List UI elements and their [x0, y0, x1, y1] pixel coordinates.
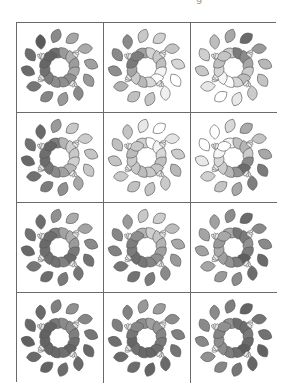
leaf [26, 171, 42, 182]
leaf [19, 63, 37, 78]
leaf [19, 153, 37, 168]
leaf [80, 161, 96, 179]
leaf [82, 237, 100, 252]
leaf [38, 268, 56, 284]
wreath-r4c2 [104, 293, 191, 383]
leaf [247, 85, 258, 101]
wreath-icon [17, 113, 103, 202]
leaf [251, 314, 267, 325]
leaf [136, 117, 151, 135]
leaf [142, 90, 157, 108]
leaf [169, 237, 187, 252]
leaf [247, 175, 258, 191]
wreath-icon [104, 113, 190, 202]
leaf [150, 210, 168, 226]
leaf [167, 161, 183, 179]
leaf [122, 34, 133, 50]
leaf [247, 265, 258, 281]
leaf [63, 301, 81, 317]
wreath-icon [191, 293, 277, 383]
leaf [109, 46, 125, 64]
leaf [73, 265, 84, 281]
leaf [109, 316, 125, 334]
leaf [106, 243, 124, 258]
leaf [82, 57, 100, 72]
leaf [35, 214, 46, 230]
leaf [26, 261, 42, 272]
wreath-grid [16, 22, 276, 382]
wreath-r2c1 [17, 113, 104, 203]
leaf [136, 298, 151, 316]
wreath-r1c2 [104, 23, 191, 113]
leaf [209, 214, 220, 230]
leaf [209, 34, 220, 50]
leaf [80, 342, 96, 360]
leaf [113, 81, 129, 92]
leaf [38, 88, 56, 104]
leaf [125, 88, 143, 104]
leaf [237, 301, 255, 317]
wreath-r4c3 [191, 293, 277, 383]
leaf [209, 305, 220, 321]
leaf [160, 175, 171, 191]
leaf [122, 214, 133, 230]
cropped-text-fragment: g [196, 0, 202, 4]
leaf [167, 342, 183, 360]
wreath-icon [17, 293, 103, 383]
wreath-r1c1 [17, 23, 104, 113]
leaf [125, 359, 143, 375]
leaf [196, 316, 212, 334]
leaf [49, 117, 64, 135]
leaf [106, 334, 124, 349]
leaf [80, 251, 96, 269]
leaf [142, 180, 157, 198]
leaf [229, 180, 244, 198]
wreath-r1c3 [191, 23, 277, 113]
wreath-r4c1 [17, 293, 104, 383]
leaf [200, 261, 216, 272]
leaf [55, 361, 70, 379]
leaf [251, 43, 267, 54]
leaf [169, 327, 187, 342]
leaf [164, 223, 180, 234]
leaf [196, 46, 212, 64]
leaf [49, 207, 64, 225]
leaf [164, 314, 180, 325]
leaf [77, 43, 93, 54]
leaf [223, 207, 238, 225]
leaf [38, 359, 56, 375]
leaf [223, 298, 238, 316]
leaf [63, 30, 81, 46]
leaf [229, 90, 244, 108]
leaf [223, 117, 238, 135]
leaf [237, 120, 255, 136]
leaf [106, 63, 124, 78]
leaf [256, 147, 274, 162]
leaf [22, 226, 38, 244]
leaf [254, 342, 270, 360]
leaf [63, 210, 81, 226]
leaf [35, 124, 46, 140]
leaf [254, 251, 270, 269]
leaf [212, 359, 230, 375]
leaf [196, 226, 212, 244]
leaf [113, 261, 129, 272]
leaf [200, 81, 216, 92]
leaf [136, 207, 151, 225]
leaf [22, 316, 38, 334]
leaf [109, 226, 125, 244]
wreath-r3c2 [104, 203, 191, 293]
leaf [200, 351, 216, 362]
leaf [256, 237, 274, 252]
leaf [193, 243, 211, 258]
leaf [212, 178, 230, 194]
leaf [256, 327, 274, 342]
leaf [125, 268, 143, 284]
leaf [109, 136, 125, 154]
leaf [113, 171, 129, 182]
leaf [19, 334, 37, 349]
leaf [193, 63, 211, 78]
leaf [164, 133, 180, 144]
wreath-icon [191, 113, 277, 202]
leaf [55, 180, 70, 198]
